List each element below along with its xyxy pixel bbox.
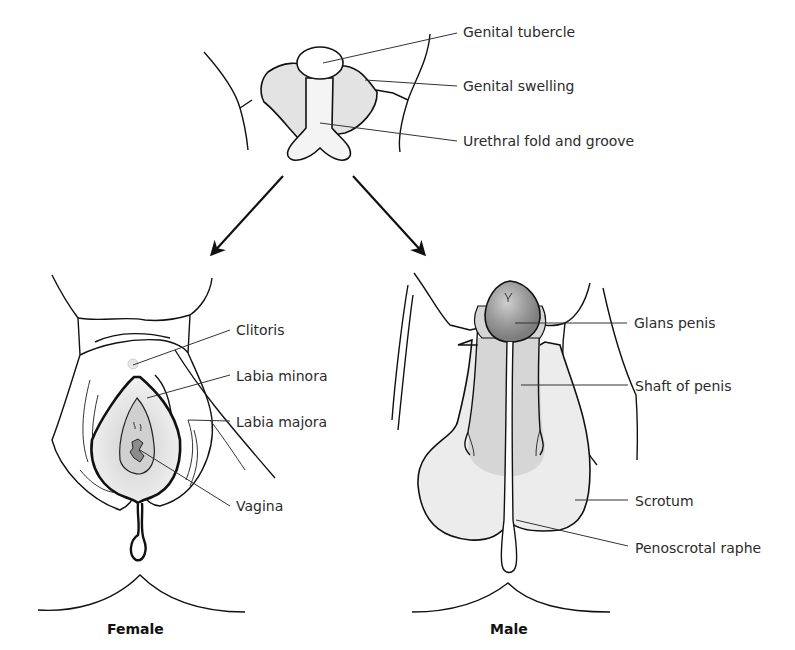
label-shaft-of-penis: Shaft of penis [635, 378, 731, 394]
label-clitoris: Clitoris [236, 322, 285, 338]
label-vagina: Vagina [236, 498, 283, 514]
label-genital-tubercle: Genital tubercle [463, 24, 575, 40]
embryology-diagram: Genital tubercle Genital swelling Urethr… [0, 0, 795, 650]
genital-tubercle-shape [297, 47, 343, 79]
arrow-to-male-icon [353, 176, 424, 254]
label-genital-swelling: Genital swelling [463, 78, 574, 94]
label-glans-penis: Glans penis [634, 315, 716, 331]
label-urethral-fold-and-groove: Urethral fold and groove [463, 133, 634, 149]
label-labia-majora: Labia majora [236, 414, 327, 430]
anus-shape [131, 503, 146, 560]
left-thigh-outline [204, 52, 248, 150]
arrow-to-female-icon [212, 176, 283, 254]
male-diagram [392, 273, 637, 612]
caption-male: Male [490, 621, 528, 637]
glans-penis-shape [485, 281, 540, 342]
label-labia-minora: Labia minora [236, 368, 328, 384]
label-scrotum: Scrotum [635, 493, 694, 509]
indifferent-stage [204, 33, 457, 160]
caption-female: Female [107, 621, 164, 637]
label-penoscrotal-raphe: Penoscrotal raphe [635, 540, 761, 556]
